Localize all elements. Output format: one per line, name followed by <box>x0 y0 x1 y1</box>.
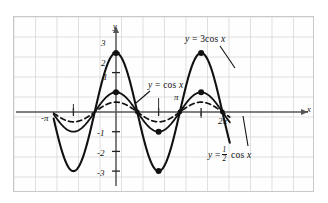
label-curve-half-cos: y =12 cos x <box>208 146 251 162</box>
y-axis-label: y <box>113 21 117 31</box>
xtick-pi: π <box>174 92 179 102</box>
xtick-2pi: 2π <box>218 116 227 126</box>
ytick-1: 1 <box>103 72 108 82</box>
one-half-fraction: 12 <box>222 146 228 162</box>
label-curve-3cos: y = 3cos x <box>185 34 225 44</box>
ytick-2: 2 <box>101 58 106 68</box>
ytick-3: 3 <box>101 38 106 48</box>
label-curve-cos: y = cos x <box>148 80 183 90</box>
plot-surface <box>0 0 328 203</box>
xtick-neg-pi: -π <box>41 113 49 123</box>
figure-root: y = 3cos x y = cos x y =12 cos x 3 2 1 -… <box>0 0 328 203</box>
ytick-neg1: -1 <box>97 128 105 138</box>
ytick-neg2: -2 <box>97 148 105 158</box>
x-axis-label: x <box>307 104 311 114</box>
ytick-neg3: -3 <box>97 168 105 178</box>
